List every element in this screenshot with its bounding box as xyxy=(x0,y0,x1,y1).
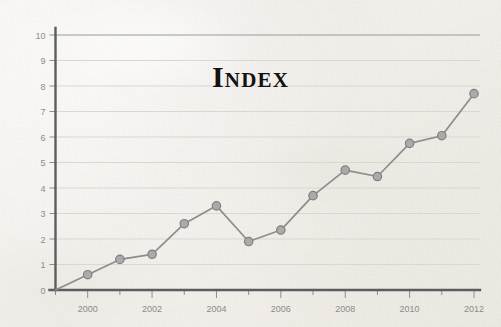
data-point-marker xyxy=(212,202,220,210)
y-axis-tick-label: 5 xyxy=(40,158,45,168)
y-axis-tick-label: 6 xyxy=(40,133,45,143)
x-axis-tick-label: 2012 xyxy=(464,304,484,314)
x-axis-tick-label: 2004 xyxy=(206,304,226,314)
chart-title: Index xyxy=(0,60,501,94)
x-axis-tick-label: 2008 xyxy=(335,304,355,314)
data-point-marker xyxy=(244,237,252,245)
x-axis-tick-label: 2000 xyxy=(78,304,98,314)
x-axis-tick-label: 2002 xyxy=(142,304,162,314)
data-point-marker xyxy=(405,139,413,147)
y-axis-tick-label: 7 xyxy=(40,107,45,117)
y-axis-tick-label: 10 xyxy=(35,31,45,41)
data-point-marker xyxy=(438,132,446,140)
chart-figure: 012345678910 200020022004200620082010201… xyxy=(0,0,501,327)
x-axis-tick-label: 2006 xyxy=(271,304,291,314)
data-point-marker xyxy=(373,172,381,180)
y-axis-tick-label: 3 xyxy=(40,209,45,219)
data-point-marker xyxy=(116,255,124,263)
line-chart-plot: 012345678910 200020022004200620082010201… xyxy=(0,0,501,327)
x-axis-tick-labels: 2000200220042006200820102012 xyxy=(78,304,484,314)
data-point-marker xyxy=(180,220,188,228)
series-markers-index xyxy=(83,89,478,278)
x-axis-tick-label: 2010 xyxy=(400,304,420,314)
data-point-marker xyxy=(83,271,91,279)
y-axis-tick-label: 4 xyxy=(40,184,45,194)
y-axis-tick-label: 1 xyxy=(40,260,45,270)
y-axis-tick-label: 0 xyxy=(40,286,45,296)
data-point-marker xyxy=(277,226,285,234)
data-point-marker xyxy=(341,166,349,174)
data-point-marker xyxy=(148,250,156,258)
y-axis-tick-label: 2 xyxy=(40,235,45,245)
data-point-marker xyxy=(309,191,317,199)
